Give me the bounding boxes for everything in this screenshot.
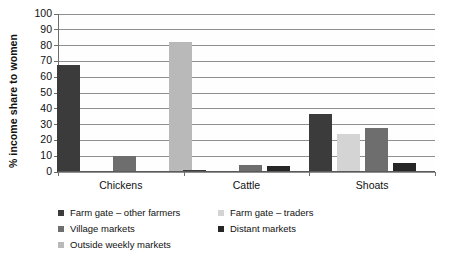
bar — [365, 128, 388, 172]
y-axis-tick-label: 60 — [26, 71, 52, 82]
legend-item: Village markets — [58, 223, 218, 234]
y-axis-tick-label: 40 — [26, 103, 52, 114]
y-axis-tick-label: 0 — [26, 166, 52, 177]
y-axis-tick-label: 10 — [26, 150, 52, 161]
legend-row: Farm gate – other farmersFarm gate – tra… — [58, 207, 388, 223]
gridline — [58, 77, 435, 78]
legend-swatch-icon — [58, 210, 64, 216]
x-axis-category-label: Chickens — [61, 179, 181, 191]
x-axis-line — [58, 171, 435, 173]
y-axis-tick-label: 100 — [26, 8, 52, 19]
legend-label: Distant markets — [230, 223, 296, 234]
gridline — [58, 61, 435, 62]
legend-swatch-icon — [218, 210, 224, 216]
x-axis-category-label: Shoats — [312, 179, 432, 191]
bar — [337, 134, 360, 172]
legend-item: Farm gate – traders — [218, 207, 313, 218]
y-axis-tick-label: 70 — [26, 55, 52, 66]
gridline — [58, 45, 435, 46]
gridline — [58, 14, 435, 15]
legend-row: Outside weekly markets — [58, 239, 388, 255]
legend-label: Farm gate – traders — [230, 207, 313, 218]
bar — [309, 114, 332, 172]
y-axis-tick-label: 90 — [26, 24, 52, 35]
y-axis-tick-label: 30 — [26, 119, 52, 130]
gridline — [58, 108, 435, 109]
x-axis-tick-mark — [58, 172, 59, 176]
bar-chart: % income share to women 1009080706050403… — [0, 0, 458, 274]
x-axis-category-label: Cattle — [187, 179, 307, 191]
x-axis-tick-mark — [309, 172, 310, 176]
legend-item: Distant markets — [218, 223, 296, 234]
legend-swatch-icon — [58, 226, 64, 232]
x-axis-tick-mark — [184, 172, 185, 176]
gridline — [58, 29, 435, 30]
y-axis-tick-label: 20 — [26, 134, 52, 145]
plot-area — [58, 14, 435, 172]
x-axis-tick-mark — [435, 172, 436, 176]
legend-label: Village markets — [70, 223, 135, 234]
y-axis-tick-label: 50 — [26, 87, 52, 98]
legend-label: Outside weekly markets — [70, 239, 171, 250]
legend-item: Farm gate – other farmers — [58, 207, 218, 218]
legend-swatch-icon — [58, 242, 64, 248]
legend: Farm gate – other farmersFarm gate – tra… — [58, 207, 388, 255]
legend-row: Village marketsDistant markets — [58, 223, 388, 239]
legend-label: Farm gate – other farmers — [70, 207, 180, 218]
y-axis-tick-label: 80 — [26, 40, 52, 51]
legend-swatch-icon — [218, 226, 224, 232]
gridline — [58, 124, 435, 125]
gridline — [58, 93, 435, 94]
y-axis-title: % income share to women — [7, 16, 19, 186]
legend-item: Outside weekly markets — [58, 239, 218, 250]
bar — [169, 42, 192, 172]
bar — [57, 65, 80, 172]
